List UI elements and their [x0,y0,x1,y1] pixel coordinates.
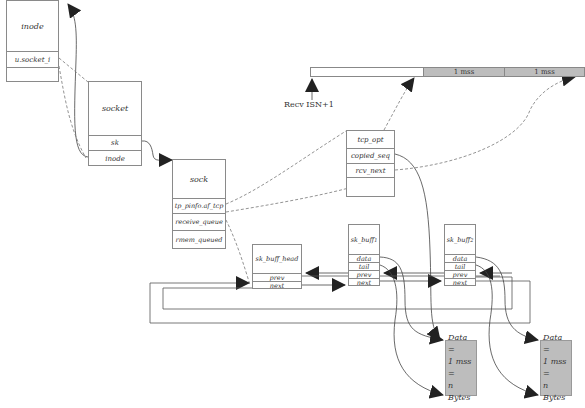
sock-title: sock [173,160,225,198]
sk-buff-1-field-next: next [349,278,379,286]
sk-buff-2-title: sk_buff2 [445,225,475,254]
sock-field-rmem-queued: rmem_queued [173,230,225,249]
skb2-data-to-data2 [476,257,538,340]
tcp-receive-queue-diagram: 1 mss 1 mss Recv ISN+1 inode u.socket_i … [0,0,585,408]
socket-title: socket [89,82,141,135]
sock-struct: sock tp_pinfo.af_tcp receive_queue rmem_… [172,159,226,249]
sk-buff-1-subscript: 1 [374,237,377,243]
sock-field-tp-pinfo: tp_pinfo.af_tcp [173,198,225,213]
skb2-tail-to-data2 [476,265,538,395]
recv-isn-label: Recv ISN+1 [284,100,334,109]
mss-label-2: 1 mss [505,68,584,76]
sequence-bar: 1 mss 1 mss [310,67,585,77]
mss-label-1: 1 mss [424,68,504,76]
inode-field-u-socket-i: u.socket_i [7,51,58,67]
sk-buff-2-field-next: next [445,278,475,286]
receive-queue-to-head-dashed [226,220,250,285]
inode-field-empty [7,67,58,83]
sk-buff-head-title: sk_buff_head [253,245,301,273]
socket-inode-to-inode-arrow [68,4,88,157]
tp-pinfo-to-tcp-opt-dashed [226,131,346,204]
sk-buff-head-struct: sk_buff_head prev next [252,244,302,289]
sk-buff-1-field-tail: tail [349,262,379,270]
socket-field-sk: sk [89,135,141,150]
data-block-1: Data = 1 mss = n Bytes [445,340,477,396]
data-block-2-line-2: 1 mss = [543,356,571,380]
tcp-opt-field-empty [347,177,394,197]
socket-sk-to-sock-arrow [142,141,172,160]
sk-buff-2-field-prev: prev [445,270,475,278]
sk-buff-2-subscript: 2 [470,237,473,243]
bar-segment-mss-2: 1 mss [504,68,584,76]
inode-to-socket-dashed-2 [59,66,86,158]
data-block-2-line-3: n Bytes [543,380,571,404]
bar-segment-consumed [311,68,423,76]
socket-struct: socket sk inode [88,81,142,166]
tcp-opt-title: tcp_opt [347,131,394,148]
skb2-next-to-head-loop [150,281,530,323]
sk-buff-1-field-prev: prev [349,270,379,278]
sk-buff-2-title-text: sk_buff [447,236,470,244]
connectors-layer [0,0,585,408]
skb1-tail-to-data1 [380,265,443,395]
sk-buff-head-field-prev: prev [253,273,301,281]
sock-field-receive-queue: receive_queue [173,213,225,230]
data-block-1-line-3: n Bytes [448,380,476,404]
data-block-1-line-1: Data = [448,332,476,356]
rcv-next-to-bar-dashed [395,77,575,170]
sk-buff-2-field-data: data [445,254,475,262]
inode-struct: inode u.socket_i [6,0,59,82]
tcp-opt-field-copied-seq: copied_seq [347,148,394,163]
data-block-1-line-2: 1 mss = [448,356,476,380]
sk-buff-1-struct: sk_buff1 data tail prev next [348,224,380,286]
sk-buff-2-struct: sk_buff2 data tail prev next [444,224,476,286]
socket-field-inode: inode [89,150,141,166]
inode-socket-i-dashed [59,58,88,82]
data-block-2: Data = 1 mss = n Bytes [540,340,572,396]
sk-buff-1-title: sk_buff1 [349,225,379,254]
tcp-opt-field-rcv-next: rcv_next [347,163,394,177]
sk-buff-head-field-next: next [253,281,301,289]
tcp-opt-struct: tcp_opt copied_seq rcv_next [346,130,395,197]
sk-buff-1-field-data: data [349,254,379,262]
data-block-2-line-1: Data = [543,332,571,356]
sk-buff-2-field-tail: tail [445,262,475,270]
bar-segment-mss-1: 1 mss [423,68,504,76]
inode-title: inode [7,1,58,51]
copied-seq-to-data1-arrow [395,154,440,340]
tcp-opt-to-bar-dashed [384,78,414,130]
sk-buff-1-title-text: sk_buff [351,236,374,244]
